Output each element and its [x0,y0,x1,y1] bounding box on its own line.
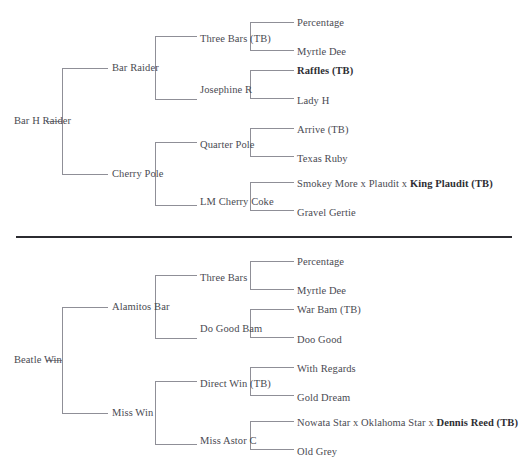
great-grandparent-label-6: Gold Dream [297,392,350,404]
pedigree-chart-beatle-win: Beatle Win Alamitos Bar Miss Win Three B… [0,243,521,459]
parent-label-1: Bar Raider [112,62,159,74]
parent-1-bracket [155,36,197,100]
grandparent-1-bracket [250,261,294,290]
great-grandparent-label-6: Texas Ruby [297,153,348,165]
great-grandparent-label-3: Raffles (TB) [297,65,353,77]
parent-label-2: Miss Win [112,407,153,419]
great-grandparent-label-4: Doo Good [297,334,342,346]
grandparent-label-3: Quarter Pole [200,139,255,151]
great-grandparent-label-1: Percentage [297,256,344,268]
grandparent-label-2: Do Good Bam [200,323,262,335]
great-grandparent-label-1: Percentage [297,17,344,29]
ggp-7-emphasis: Dennis Reed (TB) [436,417,518,428]
great-grandparent-label-3: War Bam (TB) [297,304,361,316]
great-grandparent-label-2: Myrtle Dee [297,46,346,58]
great-grandparent-label-8: Old Grey [297,446,337,458]
great-grandparent-label-5: With Regards [297,363,356,375]
grandparent-label-2: Josephine R [200,84,252,96]
parent-label-2: Cherry Pole [112,168,164,180]
great-grandparent-label-5: Arrive (TB) [297,124,349,136]
root-label: Beatle Win [14,354,62,366]
ggp-7-plain: Smokey More x Plaudit x [297,178,410,189]
great-grandparent-label-7: Nowata Star x Oklahoma Star x Dennis Ree… [297,417,518,429]
grandparent-label-4: LM Cherry Coke [200,196,274,208]
root-bracket [62,307,108,414]
great-grandparent-label-8: Gravel Gertie [297,207,356,219]
great-grandparent-label-7: Smokey More x Plaudit x King Plaudit (TB… [297,178,493,190]
great-grandparent-label-4: Lady H [297,95,329,107]
grandparent-label-1: Three Bars (TB) [200,33,271,45]
great-grandparent-label-2: Myrtle Dee [297,285,346,297]
ggp-7-plain: Nowata Star x Oklahoma Star x [297,417,436,428]
parent-2-bracket [155,381,197,445]
grandparent-2-bracket [250,70,294,99]
pedigree-chart-bar-h-raider: Bar H Raider Bar Raider Cherry Pole Thre… [0,0,521,231]
section-divider [16,236,512,238]
parent-label-1: Alamitos Bar [112,301,169,313]
grandparent-label-3: Direct Win (TB) [200,378,271,390]
grandparent-3-bracket [250,128,294,157]
ggp-7-emphasis: King Plaudit (TB) [410,178,493,189]
grandparent-label-4: Miss Astor C [200,435,257,447]
grandparent-label-1: Three Bars [200,272,247,284]
root-label: Bar H Raider [14,115,71,127]
